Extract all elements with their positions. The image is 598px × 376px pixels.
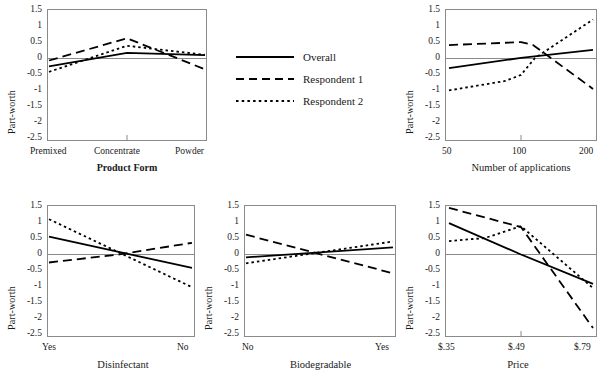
y-tick: 1.5 bbox=[16, 200, 42, 210]
y-tick: -2 bbox=[12, 312, 42, 322]
x-tick: Yes bbox=[42, 342, 56, 352]
y-tick: -2.5 bbox=[410, 132, 440, 142]
x-axis-label: Product Form bbox=[57, 162, 197, 173]
panel-disinfectant: Part-worth 1.5 1 0.5 0 -0.5 -1 -1.5 -2 -… bbox=[0, 196, 200, 376]
x-tick: $.79 bbox=[574, 342, 591, 352]
y-tick: -1.5 bbox=[12, 296, 42, 306]
y-tick: -1 bbox=[209, 280, 239, 290]
y-tick: 0.5 bbox=[16, 36, 42, 46]
y-tick: -2 bbox=[209, 312, 239, 322]
y-tick: -1.5 bbox=[410, 296, 440, 306]
y-tick: -1 bbox=[12, 84, 42, 94]
x-axis-label: Number of applications bbox=[446, 162, 596, 173]
x-tick: No bbox=[177, 342, 189, 352]
y-tick: -0.5 bbox=[410, 264, 440, 274]
x-tick: Powder bbox=[175, 146, 204, 156]
y-tick: 1.5 bbox=[414, 4, 440, 14]
plot-area bbox=[244, 205, 396, 337]
plot-area bbox=[445, 9, 597, 141]
y-tick: -0.5 bbox=[209, 264, 239, 274]
x-axis-label: Biodegradable bbox=[243, 359, 398, 370]
y-tick: -2 bbox=[410, 312, 440, 322]
y-tick: -2.5 bbox=[410, 328, 440, 338]
y-tick: -1 bbox=[12, 280, 42, 290]
y-tick: -1.5 bbox=[410, 100, 440, 110]
panel-price: Part-worth 1.5 1 0.5 0 -0.5 -1 -1.5 -2 -… bbox=[398, 196, 598, 376]
y-tick: 0 bbox=[414, 52, 440, 62]
x-tick: 200 bbox=[579, 146, 593, 156]
y-tick: 0.5 bbox=[414, 36, 440, 46]
y-tick: -1.5 bbox=[209, 296, 239, 306]
y-tick: -2.5 bbox=[209, 328, 239, 338]
y-tick: -2 bbox=[410, 116, 440, 126]
legend: Overall Respondent 1 Respondent 2 bbox=[236, 46, 386, 112]
dotted-line-key bbox=[236, 96, 294, 106]
y-tick: 1 bbox=[16, 20, 42, 30]
legend-label: Respondent 2 bbox=[303, 95, 363, 107]
plot-area bbox=[445, 205, 597, 337]
legend-entry-overall: Overall bbox=[236, 46, 386, 68]
y-tick: 0 bbox=[16, 52, 42, 62]
y-tick: 1 bbox=[16, 216, 42, 226]
y-tick: 0 bbox=[16, 248, 42, 258]
panel-biodegradable: Part-worth 1.5 1 0.5 0 -0.5 -1 -1.5 -2 -… bbox=[197, 196, 402, 376]
legend-entry-respondent-2: Respondent 2 bbox=[236, 90, 386, 112]
y-tick: -2.5 bbox=[12, 132, 42, 142]
y-tick: -1 bbox=[410, 84, 440, 94]
x-tick: No bbox=[242, 342, 254, 352]
y-tick: 0.5 bbox=[414, 232, 440, 242]
y-tick: 0.5 bbox=[16, 232, 42, 242]
panel-number-of-applications: Part-worth 1.5 1 0.5 0 -0.5 -1 -1.5 -2 -… bbox=[398, 0, 598, 190]
x-tick: Concentrate bbox=[94, 146, 140, 156]
y-tick: -1 bbox=[410, 280, 440, 290]
x-tick: 50 bbox=[442, 146, 452, 156]
y-tick: -2.5 bbox=[12, 328, 42, 338]
y-tick: 1 bbox=[414, 20, 440, 30]
x-tick: Yes bbox=[375, 342, 389, 352]
x-tick: $.35 bbox=[438, 342, 455, 352]
x-axis-label: Price bbox=[458, 359, 578, 370]
y-tick: -0.5 bbox=[410, 68, 440, 78]
plot-area bbox=[47, 205, 195, 337]
y-tick: -0.5 bbox=[12, 264, 42, 274]
legend-entry-respondent-1: Respondent 1 bbox=[236, 68, 386, 90]
panel-product-form: Part-worth 1.5 1 0.5 0 -0.5 -1 -1.5 -2 -… bbox=[0, 0, 230, 190]
y-tick: 0.5 bbox=[213, 232, 239, 242]
solid-line-key bbox=[236, 52, 294, 62]
y-tick: -1.5 bbox=[12, 100, 42, 110]
plot-area bbox=[47, 9, 207, 141]
x-tick: Premixed bbox=[30, 146, 66, 156]
y-tick: 1 bbox=[213, 216, 239, 226]
dashed-line-key bbox=[236, 74, 294, 84]
legend-label: Overall bbox=[303, 51, 336, 63]
y-tick: 1.5 bbox=[213, 200, 239, 210]
x-axis-label: Disinfectant bbox=[48, 359, 198, 370]
x-tick: $.49 bbox=[508, 342, 525, 352]
x-tick: 100 bbox=[512, 146, 526, 156]
y-tick: 0 bbox=[213, 248, 239, 258]
y-tick: -2 bbox=[12, 116, 42, 126]
y-tick: 1.5 bbox=[414, 200, 440, 210]
y-tick: 1 bbox=[414, 216, 440, 226]
y-tick: -0.5 bbox=[12, 68, 42, 78]
y-tick: 1.5 bbox=[16, 4, 42, 14]
y-tick: 0 bbox=[414, 248, 440, 258]
legend-label: Respondent 1 bbox=[303, 73, 363, 85]
